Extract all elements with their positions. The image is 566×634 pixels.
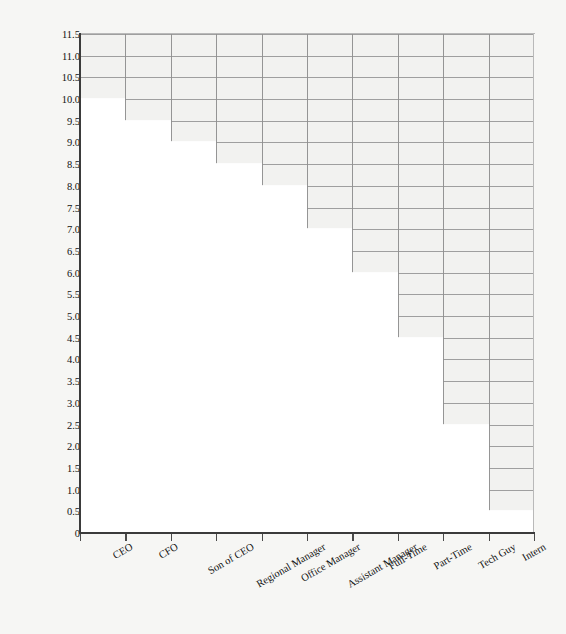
y-tick-label: 4.0 xyxy=(32,354,80,365)
y-axis-spine xyxy=(79,33,81,534)
x-tick-mark xyxy=(489,534,490,541)
x-tick-label-text: Part-Time xyxy=(432,541,474,572)
x-tick-mark xyxy=(443,534,444,541)
y-tick-label: 7.0 xyxy=(32,224,80,235)
bar[interactable] xyxy=(262,186,307,533)
y-tick-label: 10.5 xyxy=(32,72,80,83)
plot-area xyxy=(80,34,534,533)
x-tick-label: Intern xyxy=(520,541,547,563)
y-tick-label: 4.5 xyxy=(32,332,80,343)
y-tick-label: 5.0 xyxy=(32,311,80,322)
y-tick-label: 0.5 xyxy=(32,506,80,517)
x-tick-mark xyxy=(125,534,126,541)
x-tick-mark xyxy=(352,534,353,541)
y-tick-label: 0 xyxy=(32,528,80,539)
x-tick-label: Tech Guy xyxy=(477,541,518,571)
y-axis-tick-labels: 11.511.010.510.09.59.08.58.07.57.06.56.0… xyxy=(22,0,80,634)
x-tick-mark xyxy=(171,534,172,541)
y-tick-label: 8.0 xyxy=(32,180,80,191)
x-tick-mark xyxy=(398,534,399,541)
bar[interactable] xyxy=(216,164,261,533)
plot-top-spine xyxy=(79,33,535,34)
x-tick-label-text: CEO xyxy=(111,541,135,561)
gridline-vertical xyxy=(489,34,490,533)
bar[interactable] xyxy=(489,511,534,533)
x-tick-label-text: Son of CEO xyxy=(206,541,256,576)
y-tick-label: 11.0 xyxy=(32,50,80,61)
x-tick-mark xyxy=(307,534,308,541)
y-tick-label: 3.5 xyxy=(32,376,80,387)
bar[interactable] xyxy=(443,425,488,533)
y-tick-label: 7.5 xyxy=(32,202,80,213)
x-tick-label-text: CFO xyxy=(156,541,179,561)
bar[interactable] xyxy=(398,338,443,533)
y-tick-label: 8.5 xyxy=(32,159,80,170)
y-tick-label: 6.5 xyxy=(32,245,80,256)
y-tick-label: 9.0 xyxy=(32,137,80,148)
x-tick-label: CEO xyxy=(111,541,135,561)
bar[interactable] xyxy=(171,142,216,533)
y-tick-label: 3.0 xyxy=(32,397,80,408)
bar[interactable] xyxy=(125,121,170,533)
x-tick-label: Son of CEO xyxy=(206,541,256,576)
y-tick-label: 2.0 xyxy=(32,441,80,452)
y-axis-title: Amount of Praise (in laudits) xyxy=(0,0,24,634)
y-tick-label: 1.5 xyxy=(32,462,80,473)
x-tick-mark xyxy=(80,534,81,541)
x-tick-label: Part-Time xyxy=(432,541,474,572)
y-tick-label: 2.5 xyxy=(32,419,80,430)
x-tick-label-text: Intern xyxy=(520,541,547,563)
chart-figure: Amount of Praise (in laudits) 11.511.010… xyxy=(0,0,566,634)
x-tick-label-text: Tech Guy xyxy=(477,541,518,571)
y-tick-label: 1.0 xyxy=(32,484,80,495)
x-tick-label: CFO xyxy=(156,541,179,561)
bar[interactable] xyxy=(352,273,397,533)
x-tick-mark xyxy=(216,534,217,541)
y-tick-label: 9.5 xyxy=(32,115,80,126)
y-tick-label: 6.0 xyxy=(32,267,80,278)
plot-right-spine xyxy=(533,33,534,533)
y-tick-label: 11.5 xyxy=(32,29,80,40)
bar[interactable] xyxy=(80,99,125,533)
bar[interactable] xyxy=(307,229,352,533)
x-tick-mark xyxy=(262,534,263,541)
x-tick-mark xyxy=(534,534,535,541)
y-tick-label: 5.5 xyxy=(32,289,80,300)
y-tick-label: 10.0 xyxy=(32,94,80,105)
